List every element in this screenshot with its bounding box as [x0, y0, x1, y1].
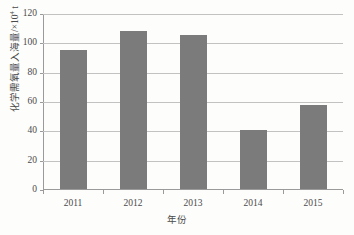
x-tick-label-2012: 2012: [103, 199, 163, 209]
bar-2011: [60, 50, 87, 189]
plot-area: 020406080100120 20112012201320142015: [43, 14, 343, 190]
x-tick-mark: [163, 190, 164, 194]
x-axis-line: [43, 189, 343, 190]
y-tick-label: 20: [0, 156, 37, 166]
x-tick-label-2011: 2011: [43, 199, 103, 209]
y-tick-label: 100: [0, 38, 37, 48]
y-tick-mark: [40, 43, 43, 44]
y-tick-label: 80: [0, 68, 37, 78]
y-tick-mark: [40, 73, 43, 74]
x-axis-title: 年份: [0, 212, 354, 226]
y-tick-label: 0: [0, 185, 37, 195]
y-tick-mark: [40, 14, 43, 15]
x-tick-label-2013: 2013: [163, 199, 223, 209]
x-tick-label-2015: 2015: [283, 199, 343, 209]
gridline: [43, 14, 343, 15]
x-tick-mark: [223, 190, 224, 194]
bar-2015: [300, 105, 327, 189]
x-tick-mark-origin: [43, 190, 44, 194]
x-tick-label-2014: 2014: [223, 199, 283, 209]
y-tick-mark: [40, 102, 43, 103]
y-tick-label: 60: [0, 97, 37, 107]
x-tick-mark: [343, 190, 344, 194]
y-tick-label: 40: [0, 126, 37, 136]
y-tick-mark: [40, 131, 43, 132]
x-tick-mark: [103, 190, 104, 194]
x-tick-mark: [283, 190, 284, 194]
bar-chart-figure: 化学需氧量入海量/×104 t 020406080100120 20112012…: [0, 0, 354, 235]
bar-2012: [120, 31, 147, 189]
bar-2014: [240, 130, 267, 189]
y-tick-label: 120: [0, 9, 37, 19]
bar-2013: [180, 35, 207, 189]
y-tick-mark: [40, 161, 43, 162]
